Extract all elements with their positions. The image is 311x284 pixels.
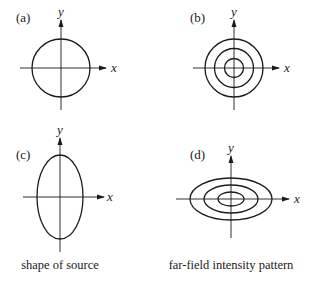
y-axis-label-d: y (226, 140, 234, 155)
x-axis-label-c: x (106, 189, 113, 204)
diagram-canvas: (a) y x (b) y x (c) y x (d) y x shape (0, 0, 311, 284)
y-axis-label-c: y (55, 122, 63, 137)
panel-d: (d) y x (176, 140, 300, 238)
panel-b: (b) y x (190, 4, 290, 110)
panel-label-b: (b) (190, 10, 205, 25)
caption-source: shape of source (21, 258, 99, 272)
x-axis-label-b: x (283, 60, 290, 75)
panel-label-a: (a) (16, 10, 30, 25)
x-axis-label-d: x (293, 191, 300, 206)
y-axis-label-b: y (229, 4, 237, 19)
y-axis-label-a: y (56, 4, 64, 19)
panel-label-c: (c) (16, 147, 30, 162)
caption-far-field: far-field intensity pattern (169, 258, 294, 272)
panel-a: (a) y x (16, 4, 117, 110)
panel-c: (c) y x (16, 122, 113, 252)
panel-label-d: (d) (190, 147, 205, 162)
x-axis-label-a: x (110, 60, 117, 75)
